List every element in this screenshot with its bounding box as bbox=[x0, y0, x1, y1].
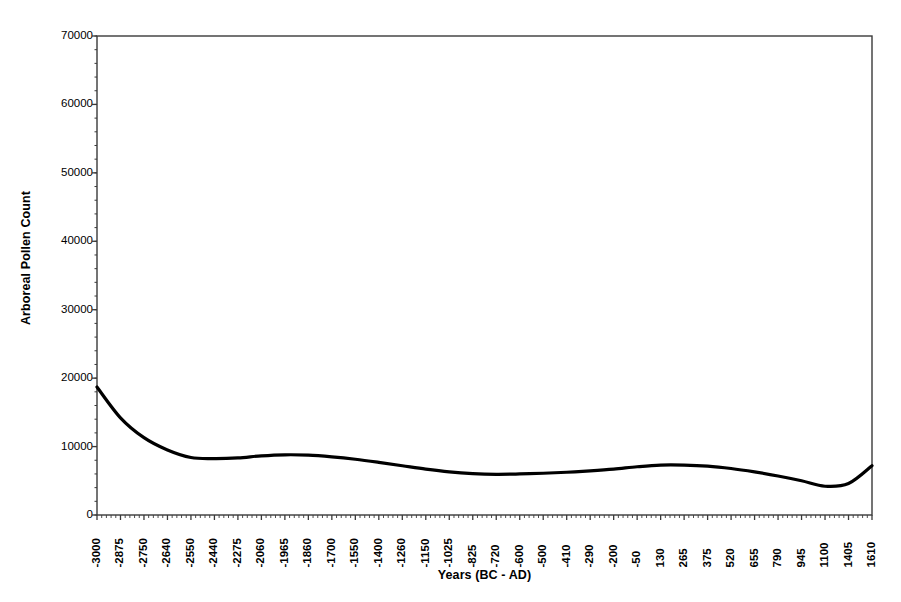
x-axis-tick-label: 265 bbox=[678, 548, 690, 567]
x-axis-tick-label: 1100 bbox=[819, 542, 831, 567]
x-axis-tick-label: -200 bbox=[607, 544, 619, 567]
x-axis-tick-label: -500 bbox=[537, 544, 549, 567]
x-axis-tick-label: -290 bbox=[584, 544, 596, 567]
x-axis-tick-label: -2875 bbox=[114, 538, 126, 567]
x-axis-tick-labels: -3000-2875-2750-2640-2550-2440-2275-2060… bbox=[0, 519, 901, 567]
x-axis-tick-label: -1965 bbox=[278, 538, 290, 567]
x-axis-tick-label: 945 bbox=[795, 548, 807, 567]
chart-container: Arboreal Pollen Count 010000200003000040… bbox=[0, 0, 901, 602]
x-axis-tick-label: -600 bbox=[513, 544, 525, 567]
x-axis-tick-label: -1860 bbox=[302, 538, 314, 567]
x-axis-tick-label: -1700 bbox=[325, 538, 337, 567]
x-axis-tick-label: 130 bbox=[654, 548, 666, 567]
x-axis-tick-label: 655 bbox=[748, 548, 760, 567]
x-axis-tick-label: 1405 bbox=[842, 541, 854, 567]
x-axis-tick-label: -2060 bbox=[255, 538, 267, 567]
x-axis-tick-label: 790 bbox=[772, 548, 784, 567]
x-axis-title: Years (BC - AD) bbox=[97, 568, 872, 582]
x-axis-tick-label: -825 bbox=[466, 544, 478, 567]
x-axis-tick-label: -1025 bbox=[443, 538, 455, 567]
x-axis-tick-label: -2440 bbox=[208, 538, 220, 567]
x-axis-tick-label: -1400 bbox=[372, 538, 384, 567]
x-axis-tick-label: -720 bbox=[490, 544, 502, 567]
x-axis-tick-label: -2750 bbox=[137, 538, 149, 567]
x-axis-tick-label: -2640 bbox=[161, 538, 173, 567]
plot-frame bbox=[97, 36, 872, 515]
x-axis-tick-label: -1150 bbox=[419, 538, 431, 567]
x-axis-tick-label: -1550 bbox=[349, 538, 361, 567]
x-axis-tick-label: -1260 bbox=[396, 538, 408, 567]
x-axis-tick-label: -2275 bbox=[231, 538, 243, 567]
plot-svg bbox=[0, 0, 901, 602]
x-axis-tick-label: 520 bbox=[725, 548, 737, 567]
x-axis-tick-label: -3000 bbox=[91, 538, 103, 567]
x-axis-tick-label: -50 bbox=[631, 550, 643, 567]
x-axis-tick-label: 1610 bbox=[866, 541, 878, 567]
x-axis-tick-label: -410 bbox=[560, 544, 572, 567]
x-axis-tick-label: 375 bbox=[701, 548, 713, 567]
x-axis-tick-label: -2550 bbox=[184, 538, 196, 567]
